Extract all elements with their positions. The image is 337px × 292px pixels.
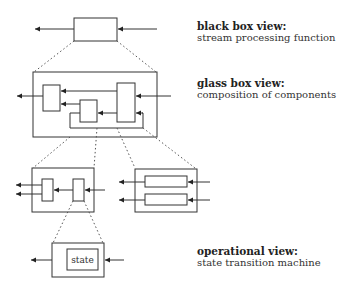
view-description: stream processing function [197, 32, 336, 44]
decomposition-left [16, 168, 105, 212]
zoom-lines-1 [34, 41, 156, 72]
diagram-canvas: state black box view: stream processing … [0, 0, 337, 292]
view-description: state transition machine [197, 257, 321, 269]
glass-box-view-label: glass box view: composition of component… [197, 77, 336, 101]
view-title: black box view: [197, 20, 336, 32]
decomposition-right [119, 169, 210, 212]
state-label: state [71, 255, 94, 265]
view-title: glass box view: [197, 77, 336, 89]
zoom-lines-2 [33, 128, 195, 168]
component-left [43, 85, 60, 111]
zoom-lines-3 [53, 201, 103, 243]
glass-box [17, 72, 171, 137]
component-middle [80, 100, 97, 122]
component-right [117, 83, 135, 122]
view-description: composition of components [197, 89, 336, 101]
view-title: operational view: [197, 245, 321, 257]
black-box-view-label: black box view: stream processing functi… [197, 20, 336, 44]
operational-view-label: operational view: state transition machi… [197, 245, 321, 269]
black-box [35, 18, 157, 41]
